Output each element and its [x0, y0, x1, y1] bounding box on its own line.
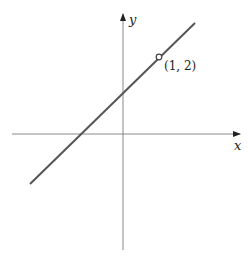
y-axis-label: y [128, 12, 137, 27]
point-marker [156, 54, 162, 60]
point-label: (1, 2) [164, 59, 196, 73]
coordinate-plane: x y (1, 2) [0, 0, 248, 257]
x-axis-label: x [234, 138, 242, 153]
graph-line [30, 23, 195, 184]
